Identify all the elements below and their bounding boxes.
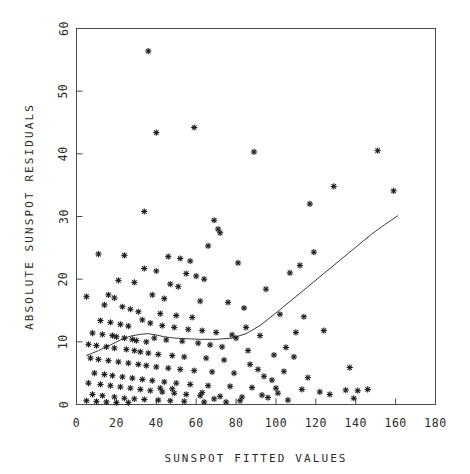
data-point (165, 365, 171, 371)
data-point (83, 398, 89, 404)
data-point (191, 368, 197, 374)
data-point (103, 344, 109, 350)
data-point (229, 332, 235, 338)
data-point (231, 370, 237, 376)
x-axis-title: SUNSPOT FITTED VALUES (164, 452, 347, 465)
data-point (127, 385, 133, 391)
data-point (181, 354, 187, 360)
y-tick-label-10: 10 (57, 334, 71, 349)
data-point (307, 201, 313, 207)
x-tick-label-60: 60 (189, 416, 204, 430)
data-point (287, 270, 293, 276)
smooth-curve-layer (86, 216, 397, 356)
data-point (113, 334, 119, 340)
data-point (117, 384, 123, 390)
data-point (243, 324, 249, 330)
data-point (321, 327, 327, 333)
data-point (107, 383, 113, 389)
data-point (247, 361, 253, 367)
x-tick-label-20: 20 (109, 416, 124, 430)
data-point (301, 314, 307, 320)
data-point (147, 388, 153, 394)
data-point (257, 332, 263, 338)
data-point (163, 337, 169, 343)
data-point (193, 273, 199, 279)
data-point (181, 398, 187, 404)
x-tick-label-80: 80 (229, 416, 244, 430)
data-point (145, 48, 151, 54)
data-point (265, 395, 271, 401)
data-point (187, 258, 193, 264)
data-point (103, 399, 109, 405)
data-point (89, 391, 95, 397)
data-point (199, 327, 205, 333)
data-point (153, 268, 159, 274)
data-point (143, 339, 149, 345)
data-point (149, 292, 155, 298)
data-points-layer (83, 48, 396, 406)
data-point (139, 317, 145, 323)
data-point (137, 386, 143, 392)
data-point (211, 217, 217, 223)
plot-frame (77, 29, 436, 405)
data-point (203, 355, 209, 361)
data-point (109, 373, 115, 379)
y-tick-label-20: 20 (57, 272, 71, 287)
data-point (161, 379, 167, 385)
data-point (241, 305, 247, 311)
data-point (317, 389, 323, 395)
data-point (173, 312, 179, 318)
data-point (283, 344, 289, 350)
data-point (105, 358, 111, 364)
data-point (169, 386, 175, 392)
data-point (209, 369, 215, 375)
data-point (269, 377, 275, 383)
data-point (157, 385, 163, 391)
data-point (141, 265, 147, 271)
data-point (201, 399, 207, 405)
y-tick-label-0: 0 (57, 401, 71, 408)
data-point (205, 383, 211, 389)
data-point (119, 304, 125, 310)
data-point (305, 374, 311, 380)
data-point (263, 286, 269, 292)
data-point (99, 393, 105, 399)
data-point (111, 394, 117, 400)
data-point (85, 380, 91, 386)
data-point (197, 298, 203, 304)
data-point (185, 326, 191, 332)
data-point (95, 356, 101, 362)
data-point (107, 319, 113, 325)
data-point (155, 397, 161, 403)
data-point (139, 376, 145, 382)
data-point (93, 342, 99, 348)
data-point (251, 149, 257, 155)
data-point (277, 311, 283, 317)
data-point (155, 351, 161, 357)
data-point (117, 321, 123, 327)
data-point (165, 254, 171, 260)
data-point (167, 281, 173, 287)
data-point (227, 383, 233, 389)
data-point (217, 393, 223, 399)
data-point (115, 277, 121, 283)
data-point (137, 349, 143, 355)
data-point (153, 129, 159, 135)
data-point (175, 284, 181, 290)
data-point (143, 363, 149, 369)
data-point (271, 352, 277, 358)
data-point (129, 375, 135, 381)
data-point (135, 309, 141, 315)
data-point (125, 360, 131, 366)
data-point (347, 364, 353, 370)
y-tick-label-60: 60 (57, 21, 71, 36)
data-point (223, 399, 229, 405)
data-point (151, 335, 157, 341)
data-point (171, 324, 177, 330)
data-point (111, 295, 117, 301)
data-point (221, 357, 227, 363)
data-point (391, 188, 397, 194)
data-point (167, 398, 173, 404)
data-point (121, 335, 127, 341)
data-point (99, 331, 105, 337)
